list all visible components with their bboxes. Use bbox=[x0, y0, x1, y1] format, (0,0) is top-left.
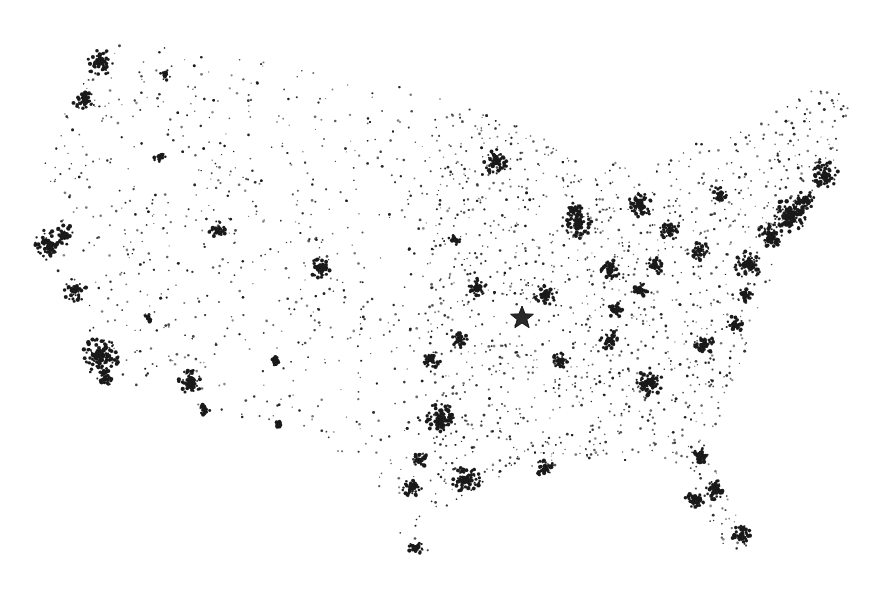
population-dot-map bbox=[0, 0, 893, 597]
background-dots-layer bbox=[45, 44, 849, 551]
star-icon bbox=[511, 306, 534, 328]
